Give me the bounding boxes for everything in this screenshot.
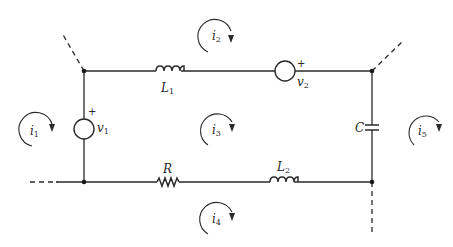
label-i3: i3	[212, 124, 221, 138]
top-branch	[84, 61, 372, 81]
dashed-lead-top-left	[62, 33, 84, 71]
label-l2-symbol: L	[277, 160, 285, 174]
right-branch	[365, 71, 379, 182]
node-top-left	[82, 69, 87, 74]
label-r: R	[163, 163, 172, 175]
circuit-diagram: L1 + v2 + v1 C R L2 i1 i2 i3 i4 i5	[0, 0, 453, 247]
label-v2: v2	[297, 76, 309, 90]
dashed-lead-top-right	[372, 40, 404, 71]
polarity-v1: +	[88, 107, 96, 117]
label-l2-sub: 2	[285, 166, 290, 175]
resistor-r-symbol	[157, 178, 179, 186]
label-v1-sub: 1	[104, 127, 109, 136]
label-l2: L2	[277, 161, 290, 175]
inductor-l1-symbol	[156, 66, 184, 71]
label-l1-symbol: L	[161, 81, 169, 95]
label-i2-sub: 2	[216, 35, 221, 44]
label-r-symbol: R	[163, 162, 172, 176]
label-v1-symbol: v	[97, 121, 104, 135]
label-i1-sub: 1	[34, 130, 39, 139]
label-i5-sub: 5	[422, 130, 427, 139]
label-i5: i5	[418, 125, 427, 139]
label-i3-sub: 3	[216, 129, 221, 138]
node-bottom-left	[82, 180, 87, 185]
label-c-symbol: C	[355, 121, 364, 135]
label-l1: L1	[161, 82, 174, 96]
left-branch	[74, 71, 94, 182]
voltage-source-v2-symbol	[275, 61, 295, 81]
bottom-branch	[56, 177, 372, 186]
label-i1: i1	[30, 125, 39, 139]
polarity-v2: +	[297, 59, 305, 69]
label-v1: v1	[97, 122, 109, 136]
voltage-source-v1-symbol	[74, 119, 94, 139]
inductor-l2-symbol	[270, 177, 298, 182]
label-i4-sub: 4	[216, 218, 221, 227]
label-v2-symbol: v	[297, 75, 304, 89]
label-v2-sub: 2	[304, 81, 309, 90]
node-top-right	[370, 69, 375, 74]
label-c: C	[355, 122, 364, 134]
node-bottom-right	[370, 180, 375, 185]
label-l1-sub: 1	[169, 87, 174, 96]
circuit-schematic	[0, 0, 453, 247]
label-i4: i4	[212, 213, 221, 227]
label-i2: i2	[212, 30, 221, 44]
